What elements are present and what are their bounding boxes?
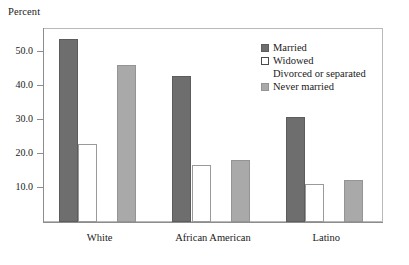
legend-swatch-never-married [261,83,269,91]
y-axis-tick-label: 50.0 [16,45,34,57]
y-axis-tick-label: 30.0 [16,113,34,125]
bar-white-married [59,39,78,222]
bar-white-widowed [78,144,97,222]
x-axis-label-african-american: African American [156,232,269,243]
bar-african-american-married [172,76,191,222]
bar-african-american-divorced-or-separated [211,151,230,222]
y-axis-tick-label: 20.0 [16,147,34,159]
x-axis-label-white: White [43,232,156,243]
legend-label-widowed: Widowed [273,55,313,67]
bar-group-african-american [172,28,250,222]
bar-latino-married [286,117,305,222]
bar-african-american-widowed [192,165,211,222]
legend-item-widowed: Widowed [261,55,366,67]
x-axis-label-latino: Latino [270,232,383,243]
legend-label-married: Married [273,42,307,54]
bar-white-never-married [117,65,136,222]
y-axis-tick-label: 40.0 [16,79,34,91]
bar-group-white [59,28,137,222]
legend-swatch-widowed [261,57,269,65]
bar-white-divorced-or-separated [98,118,117,222]
bar-chart: Percent 10.020.030.040.050.0 WhiteAfrica… [0,0,409,265]
bar-latino-never-married [344,180,363,222]
x-axis-line [43,222,383,223]
legend-swatch-married [261,44,269,52]
bar-latino-widowed [305,184,324,222]
legend-label-divorced-or-separated: Divorced or separated [273,68,366,80]
legend-item-divorced-or-separated: Divorced or separated [261,68,366,80]
legend-item-never-married: Never married [261,81,366,93]
legend-swatch-divorced-or-separated [261,70,269,78]
chart-legend: MarriedWidowedDivorced or separatedNever… [261,42,366,94]
y-axis-title: Percent [8,6,40,17]
bar-african-american-never-married [231,160,250,222]
bar-latino-divorced-or-separated [325,188,344,222]
legend-label-never-married: Never married [273,81,334,93]
legend-item-married: Married [261,42,366,54]
y-axis-tick-label: 10.0 [16,181,34,193]
